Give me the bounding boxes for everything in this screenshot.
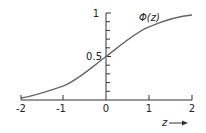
x-label: -1 (56, 103, 66, 114)
y-label-half: 0.5 (86, 51, 102, 62)
y-ticks (106, 13, 111, 91)
x-label: -2 (16, 103, 26, 114)
chart: 1 0.5 -2 -1 0 1 2 Φ(z) z (0, 0, 206, 133)
x-label: 1 (146, 103, 152, 114)
x-axis-title: z (161, 117, 168, 128)
x-label: 0 (103, 103, 109, 114)
arrow-head-icon (182, 121, 188, 126)
y-label-1: 1 (93, 8, 99, 19)
curve-label: Φ(z) (139, 12, 160, 23)
x-label: 2 (189, 103, 195, 114)
